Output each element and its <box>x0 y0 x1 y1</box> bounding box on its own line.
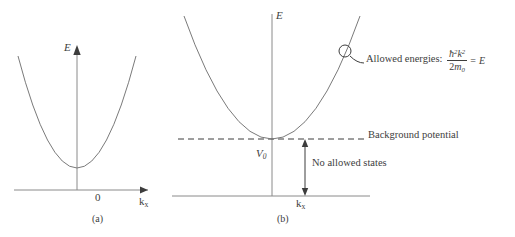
formula-result: E <box>479 55 485 66</box>
no-allowed-states-arrow-down-head <box>302 188 308 196</box>
panel-b-caption: (b) <box>277 214 289 224</box>
formula-k-exponent: 2 <box>462 48 465 55</box>
formula-mass-subscript: 0 <box>462 66 465 73</box>
panel-a-group <box>14 45 148 194</box>
physics-figure: E kx 0 (a) E kx V0 (b) Allowed energies:… <box>0 0 515 237</box>
panel-a-x-axis-label: kx <box>139 196 148 208</box>
allowed-energies-leader-line <box>350 56 364 63</box>
panel-b-y-axis-label: E <box>276 10 283 21</box>
formula-equals-sign: = <box>470 55 476 66</box>
panel-b-group <box>172 14 370 196</box>
no-allowed-states-label: No allowed states <box>312 158 387 169</box>
panel-a-x-axis-label-subscript: x <box>145 200 149 209</box>
panel-a-origin-label: 0 <box>95 192 101 203</box>
formula-numerator: ħ2k2 <box>447 48 467 60</box>
figure-vector-canvas <box>0 0 515 237</box>
panel-b-x-axis-label: kx <box>296 198 305 210</box>
formula-denominator: 2m0 <box>447 61 467 73</box>
allowed-energies-formula: ħ2k2 2m0 = E <box>447 48 485 73</box>
panel-a-x-axis-arrowhead <box>140 187 148 194</box>
formula-mass: m <box>454 61 461 72</box>
panel-a-y-axis-arrowhead <box>73 45 80 55</box>
background-potential-value-label: V0 <box>256 148 266 160</box>
no-allowed-states-arrow-up-head <box>302 139 308 147</box>
background-potential-value-base: V <box>256 147 263 159</box>
background-potential-value-subscript: 0 <box>263 152 267 161</box>
panel-a-caption: (a) <box>92 214 103 224</box>
background-potential-label: Background potential <box>368 130 459 141</box>
panel-a-y-axis-label: E <box>64 42 71 53</box>
allowed-energies-label: Allowed energies: <box>366 54 443 65</box>
panel-b-x-axis-label-subscript: x <box>302 202 306 211</box>
formula-fraction: ħ2k2 2m0 <box>447 48 467 73</box>
